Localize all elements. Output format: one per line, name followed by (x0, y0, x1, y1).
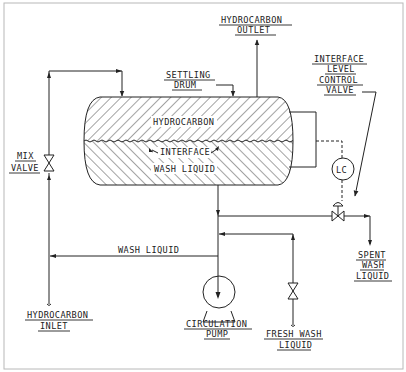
svg-text:LIQUID: LIQUID (279, 340, 312, 350)
circulation-pump-label: CIRCULATION PUMP (184, 319, 252, 339)
circulation-pump[interactable] (203, 276, 235, 322)
interface-level-control-valve[interactable] (332, 203, 344, 222)
settling-drum: HYDROCARBON INTERFACE WASH LIQUID (80, 95, 304, 187)
settling-drum-label: SETTLING DRUM (164, 70, 233, 96)
wash-liquid-layer-label: WASH LIQUID (154, 164, 215, 174)
svg-text:VALVE: VALVE (11, 163, 39, 173)
svg-text:FRESH WASH: FRESH WASH (266, 329, 322, 339)
svg-text:INLET: INLET (40, 321, 68, 331)
hydrocarbon-outlet-label: HYDROCARBON OUTLET (219, 15, 292, 35)
svg-text:PUMP: PUMP (206, 329, 228, 339)
svg-text:SPENT: SPENT (358, 250, 386, 260)
fresh-wash-liquid-label: FRESH WASH LIQUID (264, 329, 323, 350)
svg-text:LC: LC (336, 165, 347, 175)
svg-text:LEVEL: LEVEL (327, 64, 355, 74)
svg-text:WASH: WASH (362, 260, 384, 270)
svg-text:INTERFACE: INTERFACE (314, 54, 364, 64)
hydrocarbon-inlet-label: HYDROCARBON INLET (25, 310, 93, 331)
svg-text:VALVE: VALVE (326, 85, 354, 95)
level-controller-lc: LC (332, 158, 354, 180)
svg-text:SETTLING: SETTLING (166, 70, 211, 80)
spent-wash-liquid-label: SPENT WASH LIQUID (354, 250, 392, 281)
svg-text:CIRCULATION: CIRCULATION (186, 319, 247, 329)
svg-text:CONTROL: CONTROL (319, 75, 358, 85)
svg-text:HYDROCARBON: HYDROCARBON (27, 310, 88, 320)
svg-text:OUTLET: OUTLET (237, 25, 270, 35)
process-flow-diagram: HYDROCARBON INTERFACE WASH LIQUID LC HYD… (0, 0, 406, 372)
mix-valve[interactable] (44, 155, 54, 171)
fresh-wash-valve[interactable] (288, 283, 298, 299)
svg-text:LIQUID: LIQUID (356, 271, 389, 281)
hydrocarbon-layer-label: HYDROCARBON (153, 117, 214, 127)
wash-liquid-line-label: WASH LIQUID (118, 245, 179, 255)
signal-line-to-lc (316, 141, 342, 158)
svg-text:MIX: MIX (17, 151, 34, 161)
interface-label: INTERFACE (160, 147, 210, 157)
svg-text:HYDROCARBON: HYDROCARBON (221, 15, 282, 25)
mix-valve-label: MIX VALVE (9, 151, 40, 173)
svg-text:DRUM: DRUM (174, 80, 196, 90)
